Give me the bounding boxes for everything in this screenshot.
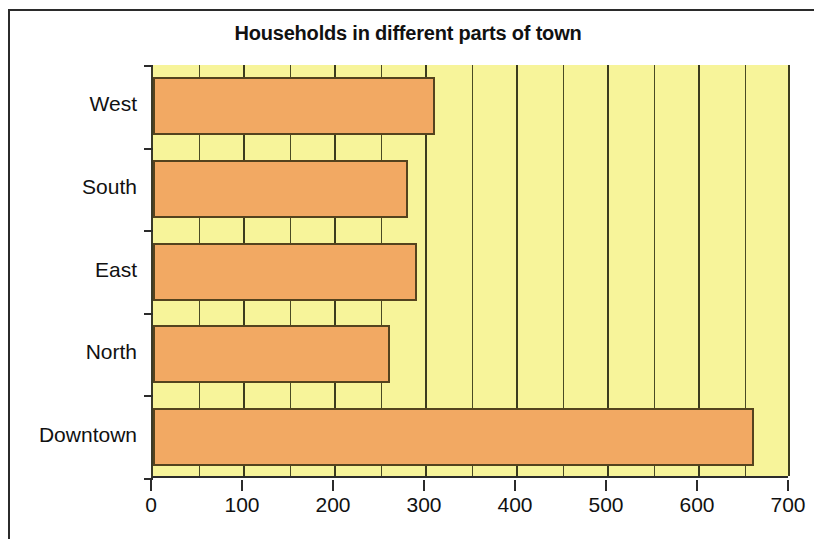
- x-axis-tick-700: [787, 480, 789, 491]
- bar-south[interactable]: [153, 160, 408, 218]
- bar-downtown[interactable]: [153, 408, 754, 466]
- x-axis-tick-600: [696, 480, 698, 491]
- x-axis: 0100200300400500600700: [151, 480, 788, 530]
- y-axis-label-north: North: [0, 340, 137, 364]
- x-axis-tick-100: [241, 480, 243, 491]
- bar-east[interactable]: [153, 243, 417, 301]
- y-axis-tick: [144, 65, 153, 67]
- x-axis-tick-500: [605, 480, 607, 491]
- x-axis-tick-0: [150, 480, 152, 491]
- bar-row: [153, 325, 788, 383]
- chart-title: Households in different parts of town: [0, 22, 816, 45]
- plot-right-edge: [788, 65, 790, 476]
- x-axis-label-200: 200: [288, 493, 378, 517]
- bar-row: [153, 160, 788, 218]
- x-axis-label-0: 0: [106, 493, 196, 517]
- y-axis-label-downtown: Downtown: [0, 423, 137, 447]
- y-axis-label-east: East: [0, 258, 137, 282]
- x-axis-label-400: 400: [470, 493, 560, 517]
- y-axis-tick: [144, 313, 153, 315]
- x-axis-label-600: 600: [652, 493, 742, 517]
- y-axis-tick: [144, 230, 153, 232]
- bar-row: [153, 243, 788, 301]
- x-axis-label-700: 700: [743, 493, 816, 517]
- y-axis-label-south: South: [0, 175, 137, 199]
- bar-north[interactable]: [153, 325, 390, 383]
- bar-west[interactable]: [153, 77, 435, 135]
- y-axis-category-labels: WestSouthEastNorthDowntown: [0, 65, 145, 478]
- x-axis-tick-200: [332, 480, 334, 491]
- bar-row: [153, 77, 788, 135]
- x-axis-tick-400: [514, 480, 516, 491]
- x-axis-label-100: 100: [197, 493, 287, 517]
- bar-row: [153, 408, 788, 466]
- x-axis-tick-300: [423, 480, 425, 491]
- plot-area: [151, 65, 788, 478]
- y-axis-label-west: West: [0, 92, 137, 116]
- y-axis-tick: [144, 148, 153, 150]
- y-axis-tick: [144, 395, 153, 397]
- x-axis-label-500: 500: [561, 493, 651, 517]
- x-axis-label-300: 300: [379, 493, 469, 517]
